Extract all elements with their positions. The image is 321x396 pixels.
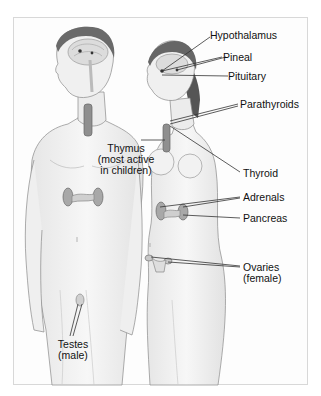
label-pancreas: Pancreas bbox=[243, 213, 287, 224]
label-thymus-line3: in children) bbox=[90, 165, 162, 176]
label-testes: Testes (male) bbox=[54, 339, 92, 361]
label-pineal: Pineal bbox=[223, 52, 252, 63]
female-figure bbox=[145, 41, 225, 385]
label-ovaries: Ovaries (female) bbox=[243, 262, 282, 284]
label-thyroid: Thyroid bbox=[243, 168, 278, 179]
label-ovaries-line2: (female) bbox=[243, 273, 282, 284]
label-parathyroids: Parathyroids bbox=[240, 99, 299, 110]
label-hypothalamus: Hypothalamus bbox=[210, 30, 277, 41]
male-figure bbox=[25, 27, 143, 385]
label-pituitary: Pituitary bbox=[228, 71, 266, 82]
label-thymus: Thymus (most active in children) bbox=[90, 143, 162, 176]
label-adrenals: Adrenals bbox=[243, 192, 284, 203]
label-testes-line2: (male) bbox=[54, 350, 92, 361]
